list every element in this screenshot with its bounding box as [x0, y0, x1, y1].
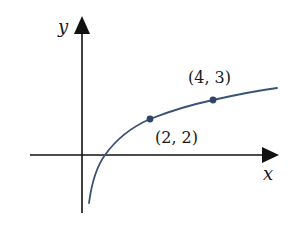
y-axis-label: y	[57, 16, 69, 37]
y-axis	[74, 16, 90, 213]
graph-canvas: y x (2, 2) (4, 3)	[0, 0, 289, 229]
point-2-2-marker	[147, 116, 154, 123]
x-axis-label: x	[263, 163, 273, 184]
log-graph-figure: y x (2, 2) (4, 3)	[0, 0, 289, 229]
point-2-2-label: (2, 2)	[155, 128, 198, 147]
x-axis	[30, 147, 279, 163]
point-4-3-label: (4, 3)	[188, 68, 231, 87]
y-axis-arrow-icon	[74, 16, 90, 34]
point-4-3-marker	[210, 97, 217, 104]
x-axis-arrow-icon	[262, 147, 279, 163]
